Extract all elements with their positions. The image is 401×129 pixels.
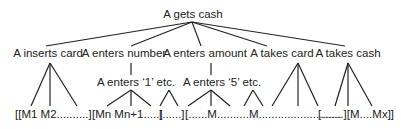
leaf-segment-3: [......] [159, 108, 185, 120]
node-inserts-card: A inserts card [13, 47, 83, 59]
node-enters-1: A enters ‘1’ etc. [97, 76, 175, 88]
root-edges [46, 22, 345, 46]
node-enters-amount: A enters amount [163, 47, 248, 59]
takes-card-edges [272, 63, 318, 106]
inserts-card-edges [31, 63, 77, 106]
leaf-segment-1: [[M1 M2..........] [15, 108, 92, 120]
node-enters-5: A enters ‘5’ etc. [183, 76, 261, 88]
leaf-segment-2: [Mn Mn+1.....] [92, 108, 163, 120]
enters-5-edges [188, 90, 263, 106]
leaf-segment-5: [.......][M....Mx]] [318, 108, 394, 120]
node-enters-number: A enters number [82, 47, 167, 59]
node-takes-card: A takes card [250, 47, 313, 59]
leaf-sequence-row: [[M1 M2..........] [Mn Mn+1.....] [.....… [15, 108, 394, 120]
action-hierarchy-tree-diagram: A gets cash A inserts card A enters numb… [0, 0, 401, 129]
enters-1-edges [107, 90, 178, 106]
node-takes-cash: A takes cash [315, 47, 380, 59]
root-node-label: A gets cash [163, 8, 222, 20]
takes-cash-edges [335, 63, 372, 106]
